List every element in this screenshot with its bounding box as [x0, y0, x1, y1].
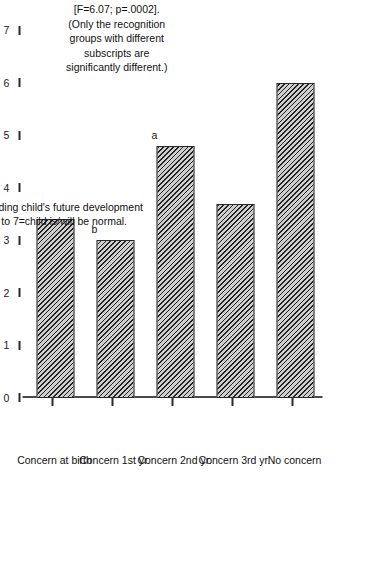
value-axis-tick-label-6: 6	[0, 77, 16, 89]
bar-group	[96, 241, 134, 399]
category-tick	[51, 398, 53, 406]
bar-chart-figure: 01234567 ba Concern at birthConcern 1st …	[0, 0, 391, 568]
value-axis-tick-label-7: 7	[0, 25, 16, 37]
bar[interactable]	[36, 220, 74, 399]
value-axis-tick-6	[18, 79, 20, 88]
category-label: No concern	[234, 454, 354, 466]
bar-group	[216, 204, 254, 398]
value-axis-tick-1	[18, 341, 20, 350]
value-axis-tick-5	[18, 131, 20, 140]
value-axis-tick-7	[18, 26, 20, 35]
value-axis-tick-label-5: 5	[0, 130, 16, 142]
value-axis-tick-label-1: 1	[0, 340, 16, 352]
bar[interactable]	[276, 83, 314, 398]
value-axis-tick-4	[18, 184, 20, 193]
value-axis-tick-3	[18, 236, 20, 245]
value-axis-tick-label-4: 4	[0, 182, 16, 194]
figure-rotator: 01234567 ba Concern at birthConcern 1st …	[0, 0, 391, 568]
category-tick	[231, 398, 233, 406]
value-axis-tick-label-0: 0	[0, 392, 16, 404]
bar-group	[276, 83, 314, 398]
bar[interactable]	[156, 146, 194, 398]
value-axis-tick-0	[18, 394, 20, 403]
bar-group	[36, 220, 74, 399]
value-axis-tick-2	[18, 289, 20, 298]
bar[interactable]	[216, 204, 254, 398]
bar-significance-marker-a: a	[147, 129, 161, 141]
category-tick	[171, 398, 173, 406]
statistics-annotation: [F=6.07; p=.0002]. (Only the recognition…	[31, 2, 201, 75]
value-axis-tick-label-3: 3	[0, 235, 16, 247]
value-axis-title: Average rating of parents' beliefs regar…	[0, 200, 190, 228]
bar-group	[156, 146, 194, 398]
value-axis-tick-label-2: 2	[0, 287, 16, 299]
category-tick	[291, 398, 293, 406]
category-tick	[111, 398, 113, 406]
bar[interactable]	[96, 241, 134, 399]
